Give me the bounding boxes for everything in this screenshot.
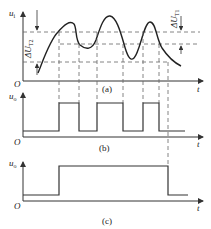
y-label-c: uo (9, 158, 17, 169)
origin-label-b: O (14, 137, 21, 147)
caption-a: (a) (102, 84, 112, 94)
t-label-c: t (197, 203, 200, 213)
y-label-b: uo (9, 91, 17, 102)
projection-lines (59, 32, 168, 166)
panel-b: uo O t (b) (9, 91, 203, 153)
y-label-a: ui (9, 8, 16, 19)
origin-label-a: O (14, 79, 21, 89)
panel-a: ΔUT2 ΔUT1 ui O t (a) (9, 8, 203, 94)
output-pulse-train (23, 103, 185, 131)
output-single-pulse (23, 166, 188, 195)
delta-ut2-label: ΔUT2 (23, 40, 34, 59)
t-label-a: t (197, 84, 200, 94)
caption-b: (b) (99, 143, 110, 153)
caption-c: (c) (102, 216, 112, 226)
delta-ut1-label: ΔUT1 (169, 10, 180, 29)
origin-label-c: O (14, 201, 21, 211)
input-signal-curve (38, 16, 181, 73)
panel-c: uo O t (c) (9, 158, 203, 226)
waveform-diagram: ΔUT2 ΔUT1 ui O t (a) uo O t (b) (0, 0, 211, 229)
t-label-b: t (197, 139, 200, 149)
